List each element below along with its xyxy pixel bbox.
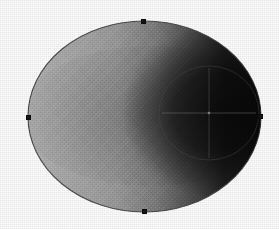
handle-right[interactable] (258, 114, 263, 119)
handle-left[interactable] (26, 115, 31, 120)
inner-center-point (208, 112, 211, 115)
handle-top[interactable] (141, 19, 146, 24)
shape-layer (0, 0, 279, 229)
handle-bottom[interactable] (142, 209, 147, 214)
vertical-shade-overlay (20, 46, 279, 186)
ellipse-canvas[interactable]: Shaded ellipse with selection handles (0, 0, 279, 229)
